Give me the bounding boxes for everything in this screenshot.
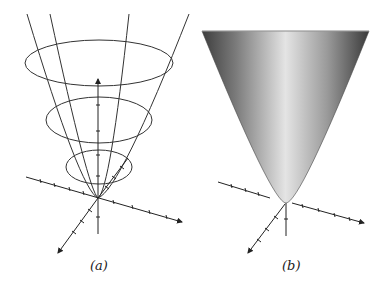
parabola-trace-4 xyxy=(98,14,189,198)
level-ellipse-middle xyxy=(46,97,152,143)
panel-b-surface xyxy=(202,31,369,253)
panel-b-caption: (b) xyxy=(282,258,300,273)
paraboloid-surface xyxy=(202,31,369,203)
x-axis xyxy=(58,198,98,253)
panel-a-wireframe xyxy=(25,14,189,253)
y-axis-b-left xyxy=(218,182,270,198)
panel-a-caption: (a) xyxy=(90,258,108,273)
x-axis-b xyxy=(248,204,285,253)
level-ellipse-top xyxy=(25,40,173,86)
figure-canvas xyxy=(0,0,383,289)
